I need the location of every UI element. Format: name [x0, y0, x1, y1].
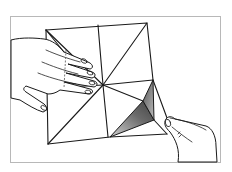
origami-illustration: [0, 0, 232, 172]
